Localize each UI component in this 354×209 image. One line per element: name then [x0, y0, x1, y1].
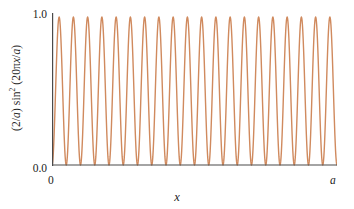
figure-chart-sin-squared: (2/a) sin2 (20πx/a) 1.0 0.0 0 a x	[0, 0, 354, 209]
x-tick-label-right: a	[330, 175, 336, 187]
ylabel-close-paren: )	[10, 44, 22, 48]
ylabel-open-paren: (20π	[10, 63, 22, 88]
ylabel-prefix: (2/	[10, 118, 22, 131]
x-axis-label: x	[0, 190, 354, 205]
ylabel-x: x	[10, 57, 22, 62]
ylabel-a-second: a	[10, 48, 22, 54]
curve-group	[52, 17, 337, 165]
plot-svg	[52, 13, 337, 170]
ylabel-a-first: a	[10, 112, 22, 118]
ylabel-mid: ) sin	[10, 91, 22, 112]
x-tick-label-left: 0	[48, 175, 54, 187]
y-axis-label: (2/a) sin2 (20πx/a)	[8, 44, 22, 130]
plot-area	[52, 13, 337, 170]
y-tick-label-bottom: 0.0	[27, 163, 47, 175]
y-tick-label-top: 1.0	[27, 9, 47, 21]
y-axis-label-container: (2/a) sin2 (20πx/a)	[0, 0, 30, 175]
data-curve-sin-squared	[52, 17, 337, 165]
